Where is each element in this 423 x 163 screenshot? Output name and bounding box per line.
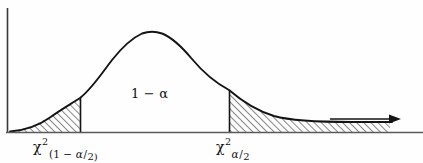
upper-tail-hatched-region: [227, 86, 393, 134]
upper-critical-value-label: χ2α/2: [216, 138, 249, 157]
chi-subscript-lower: (1 − α/2): [49, 148, 98, 160]
chi-symbol-lower: χ: [33, 139, 41, 155]
lower-critical-value-label: χ2(1 − α/2): [33, 138, 97, 157]
chi-exponent-lower: 2: [42, 136, 48, 147]
chi-exponent-upper: 2: [225, 136, 231, 147]
lower-tail-hatched-region: [8, 88, 82, 134]
subscript-alpha: α: [76, 148, 83, 160]
subscript-alpha-upper: α: [232, 148, 239, 160]
confidence-region-label: 1 − α: [131, 87, 168, 100]
chi-symbol-upper: χ: [216, 139, 224, 155]
subscript-open-paren: (1 −: [49, 148, 76, 160]
chi-subscript-upper: α/2: [232, 148, 250, 160]
chi-square-figure: 1 − α χ2(1 − α/2) χ2α/2: [0, 0, 423, 163]
subscript-denominator: 2): [87, 151, 97, 162]
subscript-denominator-upper: 2: [243, 151, 249, 162]
